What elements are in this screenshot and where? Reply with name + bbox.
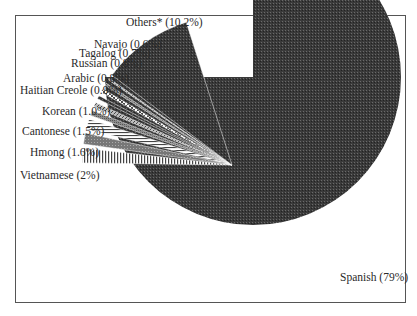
label-russian: Russian (0.8%): [71, 58, 142, 70]
label-korean: Korean (1.0%): [42, 106, 110, 118]
label-vietnamese: Vietnamese (2%): [20, 170, 99, 182]
label-arabic: Arabic (0.8%): [63, 73, 129, 85]
label-spanish: Spanish (79%): [340, 272, 408, 284]
label-hmong: Hmong (1.6%): [30, 147, 99, 159]
pie-slices: [82, 0, 401, 225]
label-cantonese: Cantonese (1.5%): [22, 126, 104, 138]
label-haitian-creole: Haitian Creole (0.9%): [20, 85, 122, 97]
label-others: Others* (10.2%): [126, 17, 203, 29]
